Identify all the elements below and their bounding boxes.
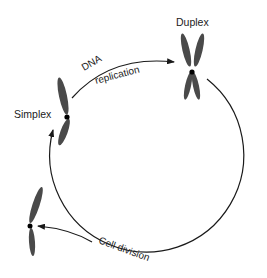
cycle-return-arrow (50, 79, 244, 252)
dna-replication-label-line1: DNA (80, 52, 104, 72)
daughter-chromosome-icon (27, 186, 46, 256)
simplex-chromosome-icon (55, 77, 72, 147)
duplex-chromosome-icon (179, 33, 207, 101)
duplex-label: Duplex (176, 16, 209, 28)
cell-cycle-diagram: DNA replication Cell division Duplex Sim… (0, 0, 267, 278)
simplex-label: Simplex (14, 108, 51, 120)
diagram-canvas: DNA replication Cell division (0, 0, 267, 278)
cell-division-label: Cell division (97, 235, 151, 264)
